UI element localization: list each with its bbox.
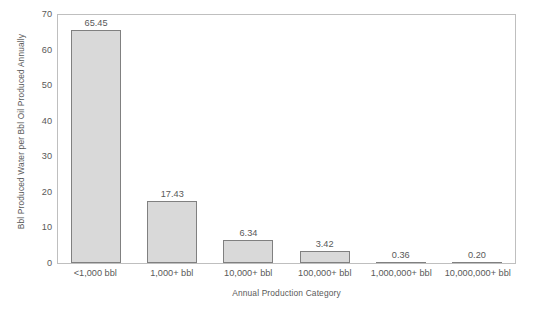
x-axis-tick-labels: <1,000 bbl1,000+ bbl10,000+ bbl100,000+ … bbox=[57, 268, 516, 284]
y-axis-tick-label: 40 bbox=[42, 116, 52, 126]
y-axis-tick-label: 70 bbox=[42, 9, 52, 19]
bar-column: 17.43 bbox=[134, 15, 210, 263]
x-axis-line bbox=[57, 263, 516, 264]
x-axis-tick-label: 100,000+ bbl bbox=[287, 268, 364, 284]
bar-column: 65.45 bbox=[58, 15, 134, 263]
bar-value-label: 6.34 bbox=[210, 228, 286, 238]
x-axis-tick-label: 1,000+ bbl bbox=[134, 268, 211, 284]
y-axis-tick-label: 60 bbox=[42, 45, 52, 55]
x-axis-tick-label: <1,000 bbl bbox=[57, 268, 134, 284]
x-axis-tick-label: 10,000,000+ bbl bbox=[440, 268, 517, 284]
bar-value-label: 65.45 bbox=[58, 18, 134, 28]
y-axis-tick-label: 30 bbox=[42, 151, 52, 161]
bar-column: 0.36 bbox=[363, 15, 439, 263]
x-axis-tick-label: 1,000,000+ bbl bbox=[363, 268, 440, 284]
y-axis-tick-label: 10 bbox=[42, 222, 52, 232]
y-axis-tick-labels: 706050403020100 bbox=[26, 14, 52, 263]
y-axis-tick-label: 0 bbox=[47, 258, 52, 268]
bar[interactable] bbox=[147, 201, 197, 263]
x-axis-title: Annual Production Category bbox=[57, 288, 516, 298]
bar[interactable] bbox=[223, 240, 273, 263]
bar-column: 3.42 bbox=[287, 15, 363, 263]
bar-chart: Bbl Produced Water per Bbl Oil Produced … bbox=[0, 0, 534, 309]
y-axis-tick-label: 50 bbox=[42, 80, 52, 90]
bar-value-label: 17.43 bbox=[134, 189, 210, 199]
x-axis-tick-label: 10,000+ bbl bbox=[210, 268, 287, 284]
bar-column: 6.34 bbox=[210, 15, 286, 263]
bar[interactable] bbox=[71, 30, 121, 263]
bar-value-label: 0.36 bbox=[363, 250, 439, 260]
y-axis-tick-label: 20 bbox=[42, 187, 52, 197]
bar-value-label: 0.20 bbox=[439, 250, 515, 260]
bar-value-label: 3.42 bbox=[287, 239, 363, 249]
plot-area: 65.4517.436.343.420.360.20 bbox=[57, 14, 516, 263]
bar-column: 0.20 bbox=[439, 15, 515, 263]
bar[interactable] bbox=[300, 251, 350, 263]
bar-series: 65.4517.436.343.420.360.20 bbox=[58, 15, 515, 263]
